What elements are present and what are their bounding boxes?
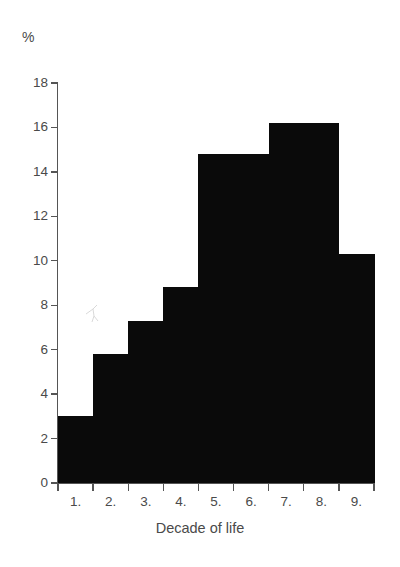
x-axis-line	[57, 483, 375, 484]
x-axis-title: Decade of life	[0, 521, 400, 536]
y-axis-tick	[51, 393, 58, 394]
y-axis-tick	[51, 216, 58, 217]
x-axis-tick-label: 2.	[91, 495, 131, 509]
y-axis-tick-label: 4	[8, 387, 48, 401]
x-axis-tick-label: 1.	[56, 495, 96, 509]
bar	[234, 154, 270, 483]
bar	[128, 321, 164, 483]
bar	[269, 123, 305, 483]
x-axis-tick	[303, 484, 304, 491]
y-axis-tick	[51, 305, 58, 306]
x-axis-tick-label: 5.	[196, 495, 236, 509]
x-axis-tick	[163, 484, 164, 491]
x-axis-tick-label: 8.	[301, 495, 341, 509]
plot-area	[58, 83, 374, 483]
y-axis-tick	[51, 127, 58, 128]
x-axis-tick	[198, 484, 199, 491]
y-axis-tick	[51, 349, 58, 350]
y-axis-unit-label: %	[22, 30, 35, 44]
x-axis-tick	[92, 484, 93, 491]
x-axis-tick	[338, 484, 339, 491]
bar	[163, 287, 199, 483]
y-axis-tick-label: 16	[8, 120, 48, 134]
bar	[58, 416, 94, 483]
bar	[93, 354, 129, 483]
y-axis-tick-label: 14	[8, 165, 48, 179]
bar	[339, 254, 375, 483]
y-axis-tick-label: 6	[8, 343, 48, 357]
y-axis-tick-label: 2	[8, 432, 48, 446]
x-axis-tick-label: 3.	[126, 495, 166, 509]
y-axis-tick-label: 18	[8, 76, 48, 90]
y-axis-tick-label: 10	[8, 254, 48, 268]
x-axis-tick	[268, 484, 269, 491]
x-axis-tick	[233, 484, 234, 491]
bar	[304, 123, 340, 483]
y-axis-tick	[51, 260, 58, 261]
y-axis-tick-label: 12	[8, 209, 48, 223]
x-axis-tick-label: 6.	[231, 495, 271, 509]
y-axis-tick	[51, 82, 58, 83]
x-axis-tick-label: 4.	[161, 495, 201, 509]
y-axis-tick-label: 0	[8, 476, 48, 490]
x-axis-tick	[373, 484, 374, 491]
y-axis-tick	[51, 171, 58, 172]
x-axis-tick-label: 9.	[336, 495, 376, 509]
y-axis-tick	[51, 438, 58, 439]
x-axis-tick	[57, 484, 58, 491]
x-axis-tick-label: 7.	[266, 495, 306, 509]
y-axis-tick-label: 8	[8, 298, 48, 312]
histogram-figure: % 024681012141618 1.2.3.4.5.6.7.8.9. Dec…	[0, 0, 400, 567]
x-axis-tick	[128, 484, 129, 491]
bar	[198, 154, 234, 483]
